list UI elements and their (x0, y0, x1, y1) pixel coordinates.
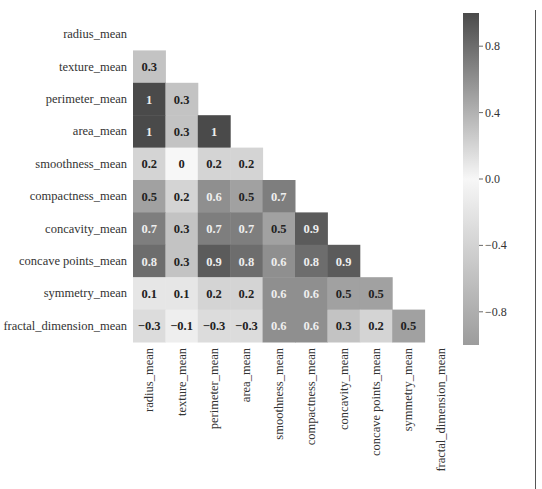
cell-value: 0.8 (303, 255, 319, 269)
heatmap-cell: −0.3 (133, 310, 166, 343)
cell-value: 0.9 (206, 255, 222, 269)
cell-value: 0.7 (141, 222, 157, 236)
heatmap-cell: 0.9 (198, 245, 231, 278)
heatmap-cell: 0.7 (263, 180, 296, 213)
heatmap-cell: 0.3 (165, 245, 198, 278)
cell-value: 0.3 (141, 60, 157, 74)
heatmap-cell: 0.2 (198, 277, 231, 310)
heatmap-cells: 0.310.310.310.200.20.20.50.20.60.50.70.7… (133, 50, 425, 342)
heatmap-cell: 0.6 (263, 310, 296, 343)
cell-value: 1 (211, 125, 217, 139)
y-tick-label: area_mean (73, 124, 128, 138)
cell-value: 0.5 (336, 287, 352, 301)
cell-value: 0.2 (368, 319, 384, 333)
cell-value: 0.6 (206, 190, 222, 204)
cell-value: 0.5 (141, 190, 157, 204)
heatmap-cell: 0.5 (263, 212, 296, 245)
y-tick-label: fractal_dimension_mean (3, 319, 127, 333)
cell-value: 0.3 (174, 222, 190, 236)
cell-value: 1 (146, 125, 152, 139)
cell-value: 0.2 (239, 287, 255, 301)
heatmap-cell: 1 (198, 115, 231, 148)
colorbar-gradient (463, 13, 479, 345)
heatmap-cell: −0.1 (165, 310, 198, 343)
heatmap-cell: 0.7 (230, 212, 263, 245)
panel-divider (535, 10, 536, 489)
heatmap-cell: 0.1 (165, 277, 198, 310)
cell-value: 0.2 (141, 157, 157, 171)
heatmap-cell: 0.2 (133, 148, 166, 181)
cell-value: 0.8 (239, 255, 255, 269)
cell-value: 0.3 (174, 255, 190, 269)
x-tick-label: perimeter_mean (207, 347, 221, 429)
x-tick-label: area_mean (239, 347, 253, 402)
heatmap-cell: −0.3 (198, 310, 231, 343)
heatmap-cell: 0.5 (230, 180, 263, 213)
heatmap-cell: 1 (133, 83, 166, 116)
cell-value: 0.3 (336, 319, 352, 333)
heatmap-cell: 0.3 (327, 310, 360, 343)
cell-value: −0.3 (203, 319, 226, 333)
heatmap-cell: −0.3 (230, 310, 263, 343)
colorbar-tick-label: 0.0 (485, 172, 500, 186)
heatmap-cell: 0.6 (263, 277, 296, 310)
heatmap-cell: 0.6 (295, 310, 328, 343)
cell-value: 0.1 (141, 287, 157, 301)
heatmap-cell: 0.2 (230, 148, 263, 181)
heatmap-cell: 0.5 (327, 277, 360, 310)
cell-value: 0.6 (303, 287, 319, 301)
cell-value: 0.7 (206, 222, 222, 236)
colorbar-ticks: 0.80.40.0−0.4−0.8 (479, 39, 507, 319)
cell-value: 0.6 (271, 255, 287, 269)
cell-value: 0.9 (336, 255, 352, 269)
cell-value: 0.3 (174, 93, 190, 107)
heatmap-cell: 0.2 (165, 180, 198, 213)
cell-value: 0.2 (174, 190, 190, 204)
heatmap-cell: 0.7 (133, 212, 166, 245)
cell-value: 0.6 (271, 287, 287, 301)
x-tick-label: compactness_mean (304, 347, 318, 445)
heatmap-cell: 0.6 (295, 277, 328, 310)
cell-value: 0.2 (239, 157, 255, 171)
colorbar: 0.80.40.0−0.4−0.8 (463, 13, 507, 345)
y-tick-label: concavity_mean (45, 222, 128, 236)
x-tick-label: concavity_mean (337, 347, 351, 430)
colorbar-tick-label: 0.4 (485, 106, 500, 120)
cell-value: −0.3 (138, 319, 161, 333)
x-tick-label: symmetry_mean (401, 347, 415, 431)
heatmap-cell: 0.3 (165, 212, 198, 245)
x-axis-labels: radius_meantexture_meanperimeter_meanare… (142, 347, 448, 471)
cell-value: −0.1 (170, 319, 193, 333)
cell-value: 0.1 (174, 287, 190, 301)
heatmap-cell: 0.8 (230, 245, 263, 278)
heatmap-cell: 0.6 (263, 245, 296, 278)
y-tick-label: radius_mean (63, 27, 128, 41)
heatmap-cell: 0.9 (295, 212, 328, 245)
heatmap-cell: 0 (165, 148, 198, 181)
heatmap-cell: 0.6 (198, 180, 231, 213)
cell-value: 1 (146, 93, 152, 107)
heatmap-cell: 0.2 (198, 148, 231, 181)
cell-value: −0.3 (235, 319, 258, 333)
correlation-heatmap: 0.310.310.310.200.20.20.50.20.60.50.70.7… (0, 0, 542, 489)
cell-value: 0.5 (271, 222, 287, 236)
x-tick-label: texture_mean (175, 347, 189, 416)
cell-value: 0 (178, 157, 184, 171)
cell-value: 0.3 (174, 125, 190, 139)
heatmap-cell: 0.8 (295, 245, 328, 278)
heatmap-cell: 0.1 (133, 277, 166, 310)
heatmap-cell: 0.3 (165, 83, 198, 116)
y-tick-label: texture_mean (59, 60, 128, 74)
x-tick-label: concave points_mean (369, 347, 383, 456)
cell-value: 0.7 (239, 222, 255, 236)
y-tick-label: concave points_mean (19, 254, 128, 268)
cell-value: 0.5 (239, 190, 255, 204)
y-axis-labels: radius_meantexture_meanperimeter_meanare… (3, 27, 127, 333)
heatmap-cell: 0.5 (133, 180, 166, 213)
cell-value: 0.5 (368, 287, 384, 301)
cell-value: 0.2 (206, 157, 222, 171)
heatmap-cell: 0.3 (165, 115, 198, 148)
colorbar-tick-label: −0.4 (485, 238, 507, 252)
heatmap-cell: 0.5 (360, 277, 393, 310)
x-tick-label: fractal_dimension_mean (434, 347, 448, 471)
